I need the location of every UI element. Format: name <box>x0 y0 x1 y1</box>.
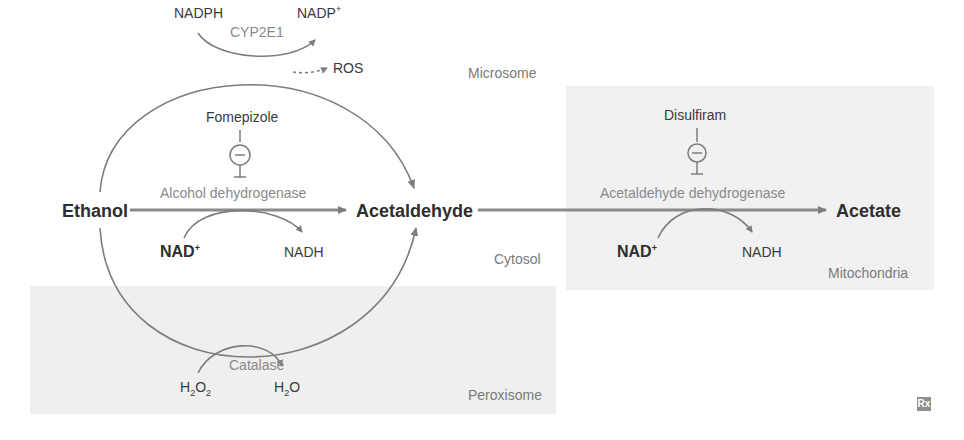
enzyme-catalase: Catalase <box>229 358 284 372</box>
metabolite-ethanol: Ethanol <box>62 202 128 220</box>
inhibitor-disulfiram: Disulfiram <box>664 108 726 122</box>
label-peroxisome: Peroxisome <box>468 388 542 402</box>
metabolite-acetate: Acetate <box>836 202 901 220</box>
cofactor-nadp-plus: NADP+ <box>297 6 341 20</box>
enzyme-cyp2e1: CYP2E1 <box>230 25 284 39</box>
cofactor-adh-nadh: NADH <box>284 245 324 259</box>
cofactor-h2o: H2O <box>274 380 300 394</box>
adh-cofactor-arc <box>184 211 302 238</box>
metabolite-acetaldehyde: Acetaldehyde <box>356 202 473 220</box>
ros-dashed-arrow <box>293 68 327 73</box>
rx-logo-icon: Rx <box>917 397 931 411</box>
aldh-cofactor-arc <box>658 209 752 238</box>
catalase-arc <box>100 228 416 357</box>
cofactor-adh-nad-plus: NAD+ <box>160 244 200 260</box>
inhibitor-fomepizole: Fomepizole <box>206 110 278 124</box>
enzyme-alcohol-dehydrogenase: Alcohol dehydrogenase <box>160 186 306 200</box>
cofactor-aldh-nad-plus: NAD+ <box>617 244 657 260</box>
cofactor-nadph: NADPH <box>174 6 223 20</box>
label-microsome: Microsome <box>468 66 536 80</box>
label-cytosol: Cytosol <box>494 252 541 266</box>
enzyme-acetaldehyde-dehydrogenase: Acetaldehyde dehydrogenase <box>600 186 785 200</box>
ethanol-metabolism-diagram: Microsome Cytosol Mitochondria Peroxisom… <box>0 0 964 440</box>
cofactor-aldh-nadh: NADH <box>742 245 782 259</box>
microsome-arc <box>100 85 414 192</box>
cofactor-h2o2: H2O2 <box>180 380 211 394</box>
label-mitochondria: Mitochondria <box>828 266 908 280</box>
product-ros: ROS <box>333 61 363 75</box>
